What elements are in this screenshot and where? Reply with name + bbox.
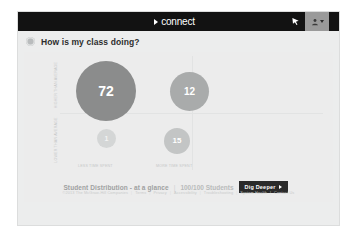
chevron-down-icon	[320, 20, 324, 23]
summary-separator: |	[174, 184, 176, 191]
x-axis-label-left: LESS TIME SPENT	[78, 164, 113, 168]
brand-logo[interactable]: connect	[154, 17, 195, 27]
footer-link-privacy[interactable]: Privacy	[153, 191, 167, 195]
page-footer: ©2013 The McGraw-Hill Companies | Terms …	[24, 191, 333, 195]
help-pointer-icon[interactable]	[285, 12, 305, 31]
question-header: How is my class doing?	[18, 31, 339, 52]
footer-link-contact-us[interactable]: Contact Us	[274, 191, 294, 195]
brand-logo-text: connect	[161, 17, 195, 27]
circle-bullet-icon	[26, 37, 35, 46]
bubble-bottom-left[interactable]: 1	[97, 129, 116, 148]
footer-link-system-health[interactable]: System Health	[240, 191, 267, 195]
footer-separator-0: |	[131, 191, 132, 195]
bubble-top-left[interactable]: 72	[76, 61, 136, 121]
student-count: 100/100 Students	[180, 184, 233, 191]
y-axis-label-bottom: LOWER THAN AVERAGE	[54, 114, 58, 166]
footer-copyright: ©2013 The McGraw-Hill Companies	[63, 191, 128, 195]
dig-deeper-label: Dig Deeper	[245, 184, 276, 190]
page-title: How is my class doing?	[41, 37, 140, 47]
caret-right-icon	[279, 185, 282, 189]
account-menu-button[interactable]	[305, 12, 329, 31]
topbar-endcap	[329, 12, 339, 31]
bubble-plot-area: 72 12 1 15 HIGHER THAN AVERAGE LOWER THA…	[60, 56, 323, 170]
y-axis-label-top: HIGHER THAN AVERAGE	[54, 59, 58, 111]
footer-separator-1: |	[149, 191, 150, 195]
footer-separator-4: |	[236, 191, 237, 195]
play-triangle-icon	[154, 19, 158, 25]
footer-link-troubleshooting[interactable]: Troubleshooting	[204, 191, 233, 195]
footer-separator-2: |	[170, 191, 171, 195]
footer-link-accessibility[interactable]: Accessibility	[174, 191, 197, 195]
user-avatar-icon	[311, 18, 319, 26]
footer-separator-3: |	[200, 191, 201, 195]
topbar-right-controls	[285, 12, 339, 31]
footer-separator-5: |	[270, 191, 271, 195]
x-axis-label-right: MORE TIME SPENT	[156, 164, 192, 168]
app-window: connect How is my class doing?	[18, 12, 339, 225]
summary-label: Student Distribution - at a glance	[63, 184, 168, 191]
bubble-bottom-right[interactable]: 15	[164, 128, 190, 154]
bubble-top-right[interactable]: 12	[170, 72, 209, 111]
footer-link-terms[interactable]: Terms	[135, 191, 146, 195]
class-performance-chart-card: 72 12 1 15 HIGHER THAN AVERAGE LOWER THA…	[24, 52, 333, 202]
top-navigation-bar: connect	[18, 12, 339, 31]
